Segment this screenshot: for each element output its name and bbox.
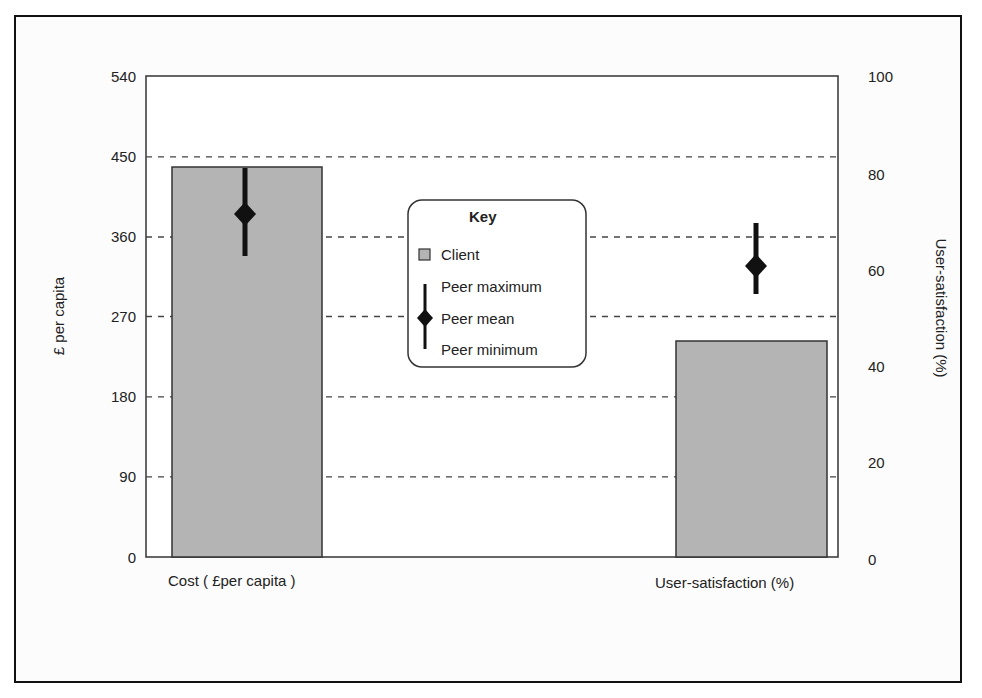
right-tick: 40 [868, 358, 885, 375]
chart-svg: 540 450 360 270 180 90 0 100 80 60 40 20… [0, 0, 982, 698]
bar-satisfaction-client [676, 341, 827, 557]
right-axis-title: User-satisfaction (%) [933, 238, 950, 377]
right-tick: 80 [868, 166, 885, 183]
legend-item-peer-min: Peer minimum [441, 341, 538, 358]
legend-title: Key [469, 208, 497, 225]
right-tick: 100 [868, 68, 893, 85]
left-tick: 360 [111, 228, 136, 245]
right-tick: 60 [868, 262, 885, 279]
legend: Key Client Peer maximum Peer mean Peer m… [408, 200, 586, 367]
legend-item-peer-mean: Peer mean [441, 310, 514, 327]
left-axis-title: £ per capita [50, 276, 67, 355]
right-tick: 0 [868, 551, 876, 568]
left-tick: 450 [111, 148, 136, 165]
left-tick: 180 [111, 388, 136, 405]
left-axis-ticks: 540 450 360 270 180 90 0 [111, 68, 136, 566]
category-label-cost: Cost ( £per capita ) [168, 572, 296, 589]
legend-item-peer-max: Peer maximum [441, 278, 542, 295]
right-tick: 20 [868, 454, 885, 471]
left-tick: 540 [111, 68, 136, 85]
left-tick: 90 [119, 468, 136, 485]
left-tick: 270 [111, 308, 136, 325]
left-tick: 0 [128, 549, 136, 566]
client-swatch-icon [419, 249, 430, 260]
category-label-satisfaction: User-satisfaction (%) [655, 574, 794, 591]
legend-item-client: Client [441, 246, 480, 263]
right-axis-ticks: 100 80 60 40 20 0 [868, 68, 893, 568]
